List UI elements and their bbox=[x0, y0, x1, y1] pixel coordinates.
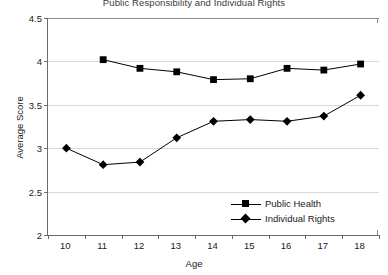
x-axis-tick-label: 16 bbox=[266, 240, 306, 251]
x-axis-tick-label: 10 bbox=[45, 240, 85, 251]
data-point-marker bbox=[247, 75, 254, 82]
data-point-marker bbox=[172, 133, 181, 142]
x-axis-tick-label: 13 bbox=[156, 240, 196, 251]
legend-label-public-health: Public Health bbox=[261, 198, 321, 209]
x-axis-minor-tick bbox=[379, 235, 380, 239]
x-axis-tick-label: 15 bbox=[229, 240, 269, 251]
data-point-marker bbox=[356, 91, 365, 100]
data-point-marker bbox=[246, 115, 255, 124]
y-axis-tick-label: 4 bbox=[2, 56, 42, 67]
y-axis-labels: 22.533.544.5 bbox=[0, 18, 42, 235]
x-axis-tick-label: 14 bbox=[193, 240, 233, 251]
data-point-marker bbox=[357, 61, 364, 68]
data-point-marker bbox=[320, 67, 327, 74]
legend-label-individual-rights: Individual Rights bbox=[261, 213, 335, 224]
y-axis-tick-label: 3 bbox=[2, 143, 42, 154]
legend: Public Health Individual Rights bbox=[228, 194, 338, 229]
x-axis-tick-label: 17 bbox=[303, 240, 343, 251]
data-point-marker bbox=[319, 112, 328, 121]
data-point-marker bbox=[173, 68, 180, 75]
data-point-marker bbox=[283, 117, 292, 126]
y-axis-tick-label: 3.5 bbox=[2, 99, 42, 110]
legend-item-public-health: Public Health bbox=[231, 196, 335, 211]
chart-title: Public Responsibility and Individual Rig… bbox=[0, 0, 388, 8]
data-point-marker bbox=[136, 158, 145, 167]
data-point-marker bbox=[209, 117, 218, 126]
data-point-marker bbox=[284, 65, 291, 72]
x-axis-line bbox=[48, 235, 379, 236]
series-line-individual-rights bbox=[66, 95, 360, 164]
data-point-marker bbox=[62, 144, 71, 153]
y-axis-tick-label: 2 bbox=[2, 230, 42, 241]
chart-container: Public Responsibility and Individual Rig… bbox=[0, 0, 388, 275]
x-axis-tick-label: 12 bbox=[119, 240, 159, 251]
legend-diamond-marker-icon bbox=[231, 213, 261, 225]
legend-square-marker-icon bbox=[231, 198, 261, 210]
legend-item-individual-rights: Individual Rights bbox=[231, 211, 335, 226]
data-point-marker bbox=[137, 65, 144, 72]
y-axis-tick-label: 4.5 bbox=[2, 13, 42, 24]
x-axis-labels: 101112131415161718 bbox=[47, 240, 378, 254]
data-point-marker bbox=[99, 160, 108, 169]
x-axis-tick-label: 18 bbox=[340, 240, 380, 251]
data-point-marker bbox=[210, 76, 217, 83]
x-axis-title: Age bbox=[0, 258, 388, 269]
y-axis-tick-label: 2.5 bbox=[2, 186, 42, 197]
data-point-marker bbox=[100, 56, 107, 63]
x-axis-tick-label: 11 bbox=[82, 240, 122, 251]
